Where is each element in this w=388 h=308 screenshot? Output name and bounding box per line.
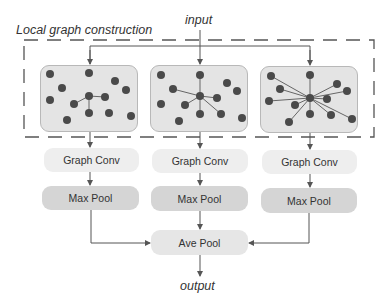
graph-node [267,72,275,80]
max-pool-block-3: Max Pool [261,188,357,213]
graph-node [343,87,351,95]
graph-node [46,96,54,104]
graph-2 [157,71,246,125]
graph-node [181,101,189,109]
graph-node [127,112,135,120]
graph-3 [265,71,356,126]
graph-node [323,95,331,103]
local-graph-region-border [24,40,374,137]
graph-node [238,114,246,122]
max-pool-label: Max Pool [287,195,331,207]
graph-node [85,69,93,77]
graph-node [196,71,204,79]
ave-pool-block: Ave Pool [151,230,248,255]
graph-node [285,118,293,126]
graph-node [276,85,284,93]
graph-node [233,87,241,95]
graph-node [101,93,109,101]
graph-conv-label: Graph Conv [281,156,338,168]
graph-node [306,94,314,102]
graph-node [291,101,299,109]
graph-layer [46,69,356,126]
max-pool-label: Max Pool [69,192,113,204]
graph-1 [46,69,135,124]
output-label: output [180,279,215,293]
ave-pool-label: Ave Pool [179,237,221,249]
graph-node [105,109,113,117]
graph-node [85,109,93,117]
graph-node [46,70,54,78]
graph-node [223,79,231,87]
graph-node [157,71,165,79]
input-label: input [185,13,212,27]
graph-node [348,115,356,123]
graph-conv-block-3: Graph Conv [262,150,357,174]
graph-node [122,86,130,94]
graph-edge [280,89,310,98]
graph-conv-block-1: Graph Conv [44,148,139,172]
graph-node [63,116,71,124]
graph-node [213,94,221,102]
graph-node [70,100,78,108]
graph-node [327,111,335,119]
graph-node [265,97,273,105]
graph-conv-label: Graph Conv [63,154,120,166]
graph-node [217,110,225,118]
graph-node [169,85,177,93]
max-pool-block-2: Max Pool [151,186,248,211]
graph-edge [289,98,310,122]
max-pool-block-1: Max Pool [42,186,139,210]
region-title: Local graph construction [16,23,152,37]
graph-conv-label: Graph Conv [172,155,229,167]
graph-node [196,92,204,100]
graph-node [306,71,314,79]
graph-conv-block-2: Graph Conv [152,149,248,173]
graph-node [58,84,66,92]
graph-node [157,100,165,108]
graph-node [175,117,183,125]
graph-node [196,110,204,118]
graph-node [85,92,93,100]
graph-node [333,80,341,88]
max-pool-label: Max Pool [178,193,222,205]
graph-edge [173,89,200,96]
graph-node [306,110,314,118]
graph-node [111,77,119,85]
